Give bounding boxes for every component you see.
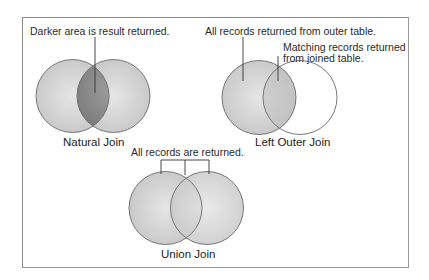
natural-join-venn	[36, 37, 150, 133]
union-join-annotation: All records are returned.	[131, 146, 244, 158]
union-join-venn	[129, 160, 244, 245]
left-outer-joined-annotation-line2: from joined table.	[283, 52, 364, 64]
natural-join-title: Natural Join	[63, 136, 124, 148]
union-join-title: Union Join	[161, 248, 215, 260]
left-outer-outer-annotation: All records returned from outer table.	[205, 25, 376, 37]
natural-join-annotation: Darker area is result returned.	[30, 25, 169, 37]
left-outer-join-title: Left Outer Join	[255, 136, 330, 148]
